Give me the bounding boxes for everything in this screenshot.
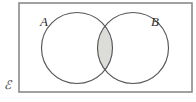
set-b-label: B <box>151 14 159 29</box>
venn-diagram-canvas: A B ℰ <box>0 0 196 102</box>
universal-set-label: ℰ <box>4 78 13 92</box>
set-a-label: A <box>39 14 48 29</box>
venn-diagram-figure: A B ℰ <box>0 0 196 102</box>
